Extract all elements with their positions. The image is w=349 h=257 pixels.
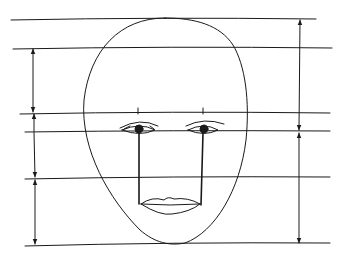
mouth bbox=[141, 198, 200, 215]
eye-to-mouth-lines bbox=[139, 133, 203, 205]
left-eye bbox=[120, 108, 158, 134]
face-proportions-diagram bbox=[0, 0, 349, 257]
left-measure-arrows bbox=[33, 49, 35, 244]
right-measure-arrows bbox=[299, 20, 300, 243]
guide-lines bbox=[11, 18, 332, 246]
